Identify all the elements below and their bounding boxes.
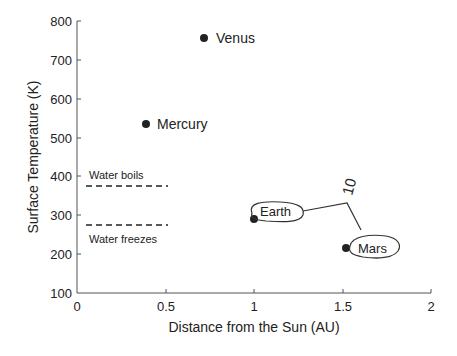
mercury-label: Mercury bbox=[157, 116, 208, 132]
y-tick-label: 800 bbox=[50, 14, 72, 29]
y-tick-label: 100 bbox=[50, 286, 72, 301]
y-ticks bbox=[77, 21, 81, 254]
y-tick-label: 400 bbox=[50, 169, 72, 184]
y-tick-label: 300 bbox=[50, 208, 72, 223]
y-tick-label: 600 bbox=[50, 92, 72, 107]
mars-label: Mars bbox=[358, 241, 387, 256]
y-tick-label: 500 bbox=[50, 131, 72, 146]
connector-line bbox=[303, 203, 361, 230]
y-tick-label: 700 bbox=[50, 53, 72, 68]
water-boils-label: Water boils bbox=[89, 169, 144, 181]
mercury-point bbox=[142, 120, 150, 128]
y-tick-label: 200 bbox=[50, 247, 72, 262]
x-tick-label: 2 bbox=[427, 299, 434, 314]
scatter-chart: 800 700 600 500 400 300 200 100 0 0.5 1 … bbox=[0, 0, 457, 356]
y-axis-label: Surface Temperature (K) bbox=[25, 80, 41, 233]
y-tick-labels: 800 700 600 500 400 300 200 100 bbox=[50, 14, 72, 301]
venus-label: Venus bbox=[216, 30, 255, 46]
x-tick-labels: 0 0.5 1 1.5 2 bbox=[73, 299, 434, 314]
venus-point bbox=[200, 34, 208, 42]
x-ticks bbox=[166, 289, 431, 293]
x-tick-label: 1 bbox=[250, 299, 257, 314]
water-freezes-label: Water freezes bbox=[89, 233, 158, 245]
x-tick-label: 1.5 bbox=[334, 299, 352, 314]
handwritten-note: 10 bbox=[338, 176, 359, 197]
x-tick-label: 0 bbox=[73, 299, 80, 314]
x-axis-label: Distance from the Sun (AU) bbox=[168, 319, 339, 335]
earth-label: Earth bbox=[260, 204, 291, 219]
x-tick-label: 0.5 bbox=[157, 299, 175, 314]
mars-point bbox=[342, 244, 350, 252]
